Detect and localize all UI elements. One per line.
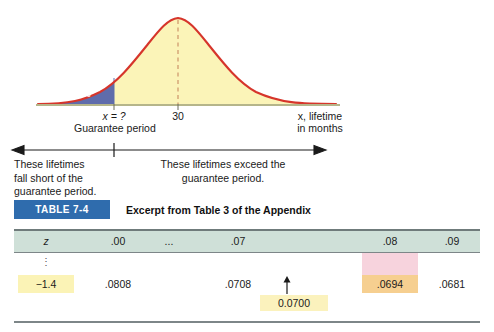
- right-annotation-text: These lifetimes exceed the guarantee per…: [128, 158, 318, 185]
- cell-08-highlighted: .0694: [362, 275, 418, 293]
- cell-07: .0708: [214, 278, 262, 290]
- header-cell-08: .08: [366, 235, 414, 247]
- table-header-row: z .00 ... .07 .08 .09: [14, 231, 480, 252]
- row-ellipsis: ⋮: [22, 259, 70, 264]
- header-cell-09: .09: [428, 235, 476, 247]
- table-caption-row: TABLE 7-4 Excerpt from Table 3 of the Ap…: [14, 200, 311, 219]
- header-cell-07: .07: [214, 235, 262, 247]
- table-body: ⋮ −1.4 .0808 .0708 .0694 .0681 0.0700: [14, 253, 480, 315]
- header-cell-ellipsis: ...: [154, 235, 184, 247]
- header-cell-z: z: [22, 235, 70, 247]
- table-caption: Excerpt from Table 3 of the Appendix: [126, 204, 311, 216]
- table-number-badge: TABLE 7-4: [14, 200, 110, 219]
- row-header-cell-z-value: −1.4: [18, 275, 74, 293]
- mean-value-label: 30: [163, 110, 193, 122]
- appendix-excerpt-table: TABLE 7-4 Excerpt from Table 3 of the Ap…: [0, 196, 494, 332]
- x-unknown-label: x = ?: [84, 110, 144, 122]
- shaded-area-percent-label: 7%: [77, 88, 91, 99]
- left-annotation-text: These lifetimes fall short of the guaran…: [14, 158, 124, 199]
- x-axis-title-line2: in months: [275, 122, 365, 134]
- header-cell-00: .00: [94, 235, 142, 247]
- guarantee-period-label: Guarantee period: [74, 122, 154, 134]
- cell-09: .0681: [428, 278, 476, 290]
- figure-and-table-page: 7% x = ? Guarantee period 30 x, lifetime…: [0, 0, 494, 332]
- annotation-arrow: [12, 143, 326, 157]
- table-grid: z .00 ... .07 .08 .09 ⋮ −1.4 .0808 .0708…: [14, 229, 480, 315]
- interpolated-value-callout: 0.0700: [260, 295, 328, 311]
- x-axis-title-line1: x, lifetime: [275, 110, 365, 122]
- cell-00: .0808: [94, 278, 142, 290]
- table-bottom-rule: [14, 321, 480, 323]
- callout-arrow: [272, 275, 302, 295]
- normal-curve-figure: 7% x = ? Guarantee period 30 x, lifetime…: [0, 0, 494, 195]
